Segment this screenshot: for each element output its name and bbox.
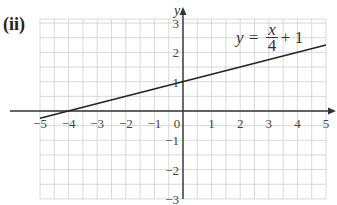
y-axis-arrow-icon bbox=[180, 7, 187, 15]
equation-fraction: x 4 bbox=[266, 22, 278, 53]
x-tick-label: −3 bbox=[90, 116, 104, 131]
equation-lhs: y = bbox=[236, 28, 259, 48]
x-tick-label: −2 bbox=[119, 116, 133, 131]
y-tick-label: −2 bbox=[165, 163, 179, 178]
equation-label: y = x 4 + 1 bbox=[236, 22, 303, 53]
x-tick-label: −4 bbox=[62, 116, 76, 131]
y-tick-label: −3 bbox=[165, 192, 179, 205]
equation-rhs: + 1 bbox=[281, 28, 303, 48]
y-tick-label: 2 bbox=[173, 45, 180, 60]
x-tick-label: 5 bbox=[323, 116, 330, 131]
y-tick-label: −1 bbox=[165, 133, 179, 148]
x-tick-label: 3 bbox=[266, 116, 273, 131]
x-tick-label: 4 bbox=[294, 116, 301, 131]
equation-denominator: 4 bbox=[268, 38, 277, 53]
y-tick-label: 3 bbox=[173, 16, 180, 31]
x-tick-label: −1 bbox=[147, 116, 161, 131]
x-tick-label: 1 bbox=[208, 116, 215, 131]
x-axis-arrow-icon bbox=[328, 108, 336, 115]
x-tick-label: 0 bbox=[174, 116, 181, 131]
x-tick-label: 2 bbox=[237, 116, 244, 131]
